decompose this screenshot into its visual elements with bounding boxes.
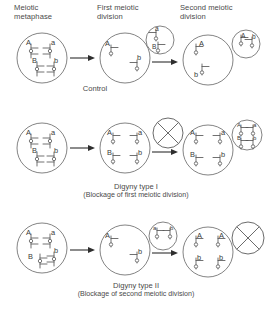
chromosome-label-B: B (107, 148, 112, 157)
cell-control-polar-body-2: A b (232, 30, 260, 58)
chromosome-label-b: b (54, 146, 58, 155)
diagram-canvas: A a B b A b a B (0, 0, 272, 311)
chromosome-label-b: b (194, 70, 198, 79)
chromosome-label-b: b (138, 148, 142, 157)
chromosome-label-a: a (155, 25, 159, 32)
cell-digyny1-blocked-polar-body (153, 118, 183, 148)
chromosome-label-a: a (221, 128, 226, 137)
chromosome-label-a: a (51, 128, 56, 137)
cell-control-polar-body-1: a B (146, 25, 174, 54)
chromosome-label-B: B (190, 150, 195, 159)
chromosome-label-A: A (107, 128, 112, 137)
chromosome-label-A: A (197, 231, 202, 240)
chromosome-label-b: b (54, 246, 58, 255)
chromosome-label-b: b (137, 53, 141, 62)
chromosome-label-A: A (190, 128, 195, 137)
chromosome-label-B: B (32, 146, 37, 155)
chromosome-label-A: A (237, 122, 241, 128)
chromosome-label-B: B (28, 252, 33, 261)
chromosome-label-b: b (170, 225, 174, 231)
chromosome-label-B: B (237, 135, 241, 141)
cell-digyny2-metaphase: A a B b (17, 223, 67, 273)
chromosome-label-B: B (32, 56, 37, 65)
chromosome-label-b: b (219, 253, 223, 262)
cell-control-ootid: A b (183, 35, 233, 85)
cell-digyny2-blocked-polar-body (232, 222, 264, 254)
chromosome-label-A: A (105, 231, 110, 240)
arrow-control-2 (152, 59, 178, 65)
chromosome-label-A: A (199, 39, 204, 48)
chromosome-label-a: a (51, 228, 56, 237)
cell-digyny2-after-mi: A b (100, 225, 150, 275)
chromosome-label-b: b (54, 56, 58, 65)
chromosome-label-b: b (197, 253, 201, 262)
chromosome-label-A: A (241, 32, 246, 39)
cell-digyny1-ootid: A a B b (183, 125, 233, 175)
chromosome-label-A: A (26, 228, 31, 237)
arrow-digyny1-2 (152, 149, 178, 155)
arrow-digyny2-2 (152, 250, 178, 256)
chromosome-label-A: A (219, 231, 224, 240)
cell-digyny1-metaphase: A a B b (17, 123, 67, 173)
chromosome-label-B: B (152, 43, 157, 50)
arrow-digyny1-1 (70, 145, 95, 151)
cell-digyny1-polar-body: A a B b (232, 120, 262, 150)
chromosome-label-b: b (252, 33, 256, 40)
cell-control-metaphase: A a B b (17, 33, 67, 83)
cell-digyny2-ootid: A A b b (183, 227, 233, 277)
arrow-digyny2-1 (70, 247, 95, 253)
cell-digyny1-after-mi: A a B b (100, 123, 150, 173)
chromosome-label-a: a (51, 38, 56, 47)
chromosome-label-b: b (221, 150, 225, 159)
chromosome-label-A: A (26, 128, 31, 137)
chromosome-label-b: b (138, 247, 142, 256)
cell-digyny2-polar-body-1: a b (149, 222, 177, 250)
cell-control-after-mi: A b (100, 33, 150, 83)
meiosis-diagram: Meiotic metaphase First meiotic division… (0, 0, 272, 311)
arrow-control-1 (70, 55, 95, 61)
chromosome-label-A: A (105, 39, 110, 48)
chromosome-label-A: A (26, 38, 31, 47)
chromosome-label-a: a (153, 225, 157, 231)
chromosome-label-b: b (253, 135, 257, 141)
